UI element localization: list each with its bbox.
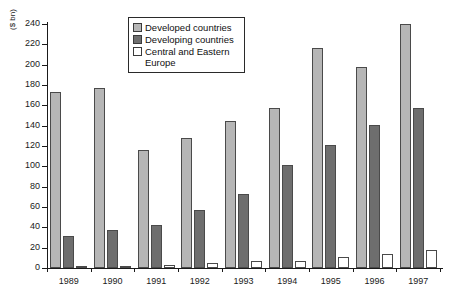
y-axis-tick-label-text: 200 xyxy=(2,60,40,69)
bar-developing-1993 xyxy=(238,194,249,268)
x-axis-tick xyxy=(353,268,354,272)
bar-developed-1997 xyxy=(400,24,411,268)
x-axis-tick xyxy=(309,268,310,272)
y-axis-tick-label-text: 120 xyxy=(2,141,40,150)
bar-developed-1996 xyxy=(356,67,367,268)
y-axis-tick-label-text: 40 xyxy=(2,222,40,231)
x-axis-tick-label: 1991 xyxy=(136,276,176,286)
y-axis-tick-label: 220 xyxy=(0,39,40,48)
y-axis-tick-label-text: 80 xyxy=(2,182,40,191)
y-axis-tick-label-text: 140 xyxy=(2,121,40,130)
y-axis-tick-label: 100 xyxy=(0,161,40,170)
bar-cee-1993 xyxy=(251,261,262,268)
bar-cee-1991 xyxy=(164,265,175,268)
bar-cee-1995 xyxy=(338,257,349,268)
bar-developed-1990 xyxy=(94,88,105,268)
y-axis-tick-label: 20 xyxy=(0,243,40,252)
x-axis-tick xyxy=(222,268,223,272)
y-axis-tick-label: 120 xyxy=(0,141,40,150)
x-axis-tick xyxy=(91,268,92,272)
y-axis-tick-label: 180 xyxy=(0,80,40,89)
y-axis-tick-label-text: 180 xyxy=(2,80,40,89)
legend-swatch-developing-icon xyxy=(133,35,142,44)
bar-developed-1993 xyxy=(225,121,236,268)
y-axis-tick-label: 60 xyxy=(0,202,40,211)
bar-cee-1989 xyxy=(76,266,87,268)
bar-developing-1990 xyxy=(107,230,118,268)
legend-item: Developed countries xyxy=(133,22,239,33)
x-axis-tick xyxy=(396,268,397,272)
bar-cee-1996 xyxy=(382,254,393,268)
legend-item-label: Central and Eastern Europe xyxy=(145,46,230,68)
legend-item: Central and Eastern Europe xyxy=(133,46,239,68)
y-axis-tick-label: 140 xyxy=(0,121,40,130)
y-axis-tick-label: 40 xyxy=(0,222,40,231)
chart-legend: Developed countriesDeveloping countriesC… xyxy=(128,17,245,73)
y-axis-tick-label-text: 240 xyxy=(2,19,40,28)
y-axis-tick-label-text: 160 xyxy=(2,100,40,109)
bar-developed-1994 xyxy=(269,108,280,268)
x-axis-tick-label: 1997 xyxy=(398,276,438,286)
y-axis-tick-label: 80 xyxy=(0,182,40,191)
bar-developing-1992 xyxy=(194,210,205,268)
bar-developed-1989 xyxy=(50,92,61,268)
y-axis-tick-label-text: 0 xyxy=(2,263,40,272)
x-axis-tick-label: 1990 xyxy=(93,276,133,286)
x-axis-tick xyxy=(265,268,266,272)
bar-developing-1991 xyxy=(151,225,162,268)
legend-item-label: Developed countries xyxy=(145,22,232,33)
x-axis-tick-label: 1989 xyxy=(49,276,89,286)
bar-developing-1997 xyxy=(413,108,424,268)
bar-chart: ($ bn) 020406080100120140160180200220240… xyxy=(0,0,451,297)
x-axis-line xyxy=(47,268,443,269)
bar-developed-1995 xyxy=(312,48,323,268)
x-axis-tick-label: 1994 xyxy=(267,276,307,286)
x-axis-tick-label: 1996 xyxy=(355,276,395,286)
bar-cee-1990 xyxy=(120,266,131,268)
legend-item-label: Developing countries xyxy=(145,34,234,45)
bar-cee-1997 xyxy=(426,250,437,268)
bar-developed-1992 xyxy=(181,138,192,268)
legend-item: Developing countries xyxy=(133,34,239,45)
legend-swatch-cee-icon xyxy=(133,47,142,56)
bar-developing-1995 xyxy=(325,145,336,268)
legend-swatch-developed-icon xyxy=(133,23,142,32)
x-axis-tick xyxy=(134,268,135,272)
y-axis-tick-label-text: 60 xyxy=(2,202,40,211)
y-axis-tick-label: 240 xyxy=(0,19,40,28)
x-axis-tick xyxy=(178,268,179,272)
bar-developed-1991 xyxy=(138,150,149,268)
x-axis-tick-label: 1995 xyxy=(311,276,351,286)
bar-developing-1994 xyxy=(282,165,293,268)
bar-cee-1994 xyxy=(295,261,306,268)
bar-developing-1996 xyxy=(369,125,380,268)
y-axis-tick-label-text: 220 xyxy=(2,39,40,48)
bar-developing-1989 xyxy=(63,236,74,268)
y-axis-tick-label-text: 100 xyxy=(2,161,40,170)
y-axis-tick-label: 200 xyxy=(0,60,40,69)
y-axis-tick-label: 0 xyxy=(0,263,40,272)
x-axis-tick-label: 1993 xyxy=(224,276,264,286)
y-axis-tick-label-text: 20 xyxy=(2,243,40,252)
x-axis-tick xyxy=(47,268,48,272)
y-axis-tick-label: 160 xyxy=(0,100,40,109)
x-axis-tick-label: 1992 xyxy=(180,276,220,286)
bar-cee-1992 xyxy=(207,263,218,268)
x-axis-tick xyxy=(440,268,441,272)
